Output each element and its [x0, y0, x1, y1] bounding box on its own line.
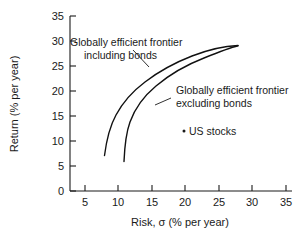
annotation-excluding-bonds-line2: excluding bonds	[176, 97, 252, 109]
annotation-excluding-bonds-line1: Globally efficient frontier	[176, 84, 289, 96]
chart-canvas: 35 30 25 20 15 10 5 0 5 10 15 20 25 30 3…	[0, 0, 299, 236]
x-tick-label-5: 5	[82, 196, 88, 208]
efficient-frontier-chart: 35 30 25 20 15 10 5 0 5 10 15 20 25 30 3…	[0, 0, 299, 236]
x-tick-label-25: 25	[213, 196, 225, 208]
x-tick-label-15: 15	[146, 196, 158, 208]
x-tick-label-30: 30	[246, 196, 258, 208]
y-tick-label-30: 30	[52, 35, 64, 47]
us-stocks-label: US stocks	[189, 125, 236, 137]
y-tick-label-35: 35	[52, 10, 64, 22]
y-tick-label-10: 10	[52, 135, 64, 147]
y-axis-title: Return (% per year)	[8, 56, 20, 153]
x-tick-label-20: 20	[179, 196, 191, 208]
us-stocks-point-marker	[183, 130, 186, 133]
y-tick-label-0: 0	[58, 185, 64, 197]
y-tick-label-20: 20	[52, 85, 64, 97]
y-tick-label-5: 5	[58, 160, 64, 172]
x-tick-label-35: 35	[280, 196, 292, 208]
x-axis-title: Risk, σ (% per year)	[131, 216, 229, 228]
x-tick-label-10: 10	[112, 196, 124, 208]
annotation-including-bonds-line2: including bonds	[84, 49, 157, 61]
annotation-including-bonds-line1: Globally efficient frontier	[70, 36, 183, 48]
y-tick-label-15: 15	[52, 110, 64, 122]
y-tick-label-25: 25	[52, 60, 64, 72]
